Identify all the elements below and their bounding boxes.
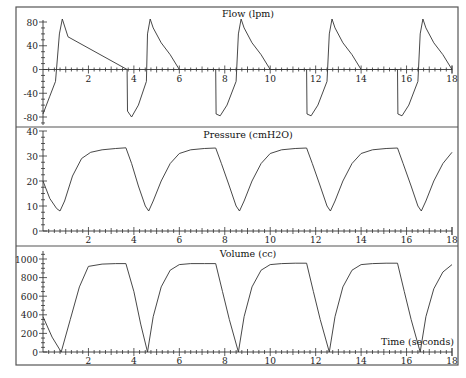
pressure-x-tick-label: 18 xyxy=(446,235,458,245)
pressure-panel: Pressure (cmH2O) 24681012141618403020100 xyxy=(27,127,458,246)
pressure-x-tick-label: 10 xyxy=(264,235,276,245)
volume-y-tick-label: 1000 xyxy=(15,255,38,265)
volume-x-tick-label: 16 xyxy=(401,356,413,366)
volume-x-tick-label: 8 xyxy=(222,356,228,366)
flow-x-tick-label: 6 xyxy=(176,74,182,84)
pressure-x-tick-label: 16 xyxy=(401,235,413,245)
flow-y-tick-label: 40 xyxy=(27,41,39,51)
flow-y-tick-label: 80 xyxy=(27,18,39,28)
pressure-title: Pressure (cmH2O) xyxy=(203,129,292,140)
volume-panel: Volume (cc) Time (seconds) 2468101214161… xyxy=(15,248,458,366)
volume-y-tick-label: 800 xyxy=(21,273,38,283)
flow-x-tick-label: 8 xyxy=(222,74,228,84)
volume-x-tick-label: 6 xyxy=(176,356,182,366)
pressure-y-tick-label: 40 xyxy=(27,127,39,137)
volume-y-tick-label: 0 xyxy=(32,348,38,358)
ventilator-waveform-chart: Flow (lpm) 2468101214161880400-40-80 Pre… xyxy=(0,0,466,378)
flow-x-tick-label: 10 xyxy=(264,74,276,84)
pressure-y-tick-label: 10 xyxy=(27,202,39,212)
volume-y-tick-label: 600 xyxy=(21,292,38,302)
volume-x-tick-label: 18 xyxy=(446,356,458,366)
pressure-x-tick-label: 8 xyxy=(222,235,228,245)
pressure-y-tick-label: 0 xyxy=(32,227,38,237)
volume-title: Volume (cc) xyxy=(219,248,277,259)
flow-y-tick-label: -40 xyxy=(24,89,39,99)
volume-x-tick-label: 12 xyxy=(310,356,321,366)
flow-x-tick-label: 14 xyxy=(355,74,367,84)
pressure-y-tick-label: 20 xyxy=(27,177,39,187)
pressure-y-tick-label: 30 xyxy=(27,152,39,162)
flow-x-tick-label: 18 xyxy=(446,74,458,84)
flow-panel: Flow (lpm) 2468101214161880400-40-80 xyxy=(24,8,458,125)
flow-y-tick-label: 0 xyxy=(32,65,38,75)
volume-y-tick-label: 200 xyxy=(21,329,38,339)
flow-y-tick-label: -80 xyxy=(24,113,39,123)
pressure-x-tick-label: 6 xyxy=(176,235,182,245)
volume-x-tick-label: 4 xyxy=(131,356,137,366)
volume-x-tick-label: 2 xyxy=(86,356,92,366)
pressure-x-tick-label: 12 xyxy=(310,235,321,245)
volume-y-tick-label: 400 xyxy=(21,310,38,320)
flow-title: Flow (lpm) xyxy=(222,8,274,19)
flow-x-tick-label: 16 xyxy=(401,74,413,84)
pressure-x-tick-label: 14 xyxy=(355,235,367,245)
flow-x-tick-label: 12 xyxy=(310,74,321,84)
flow-x-tick-label: 2 xyxy=(86,74,92,84)
pressure-x-tick-label: 2 xyxy=(86,235,92,245)
volume-x-tick-label: 14 xyxy=(355,356,367,366)
flow-x-tick-label: 4 xyxy=(131,74,137,84)
volume-x-tick-label: 10 xyxy=(264,356,276,366)
pressure-x-tick-label: 4 xyxy=(131,235,137,245)
pressure-trace xyxy=(43,148,452,211)
